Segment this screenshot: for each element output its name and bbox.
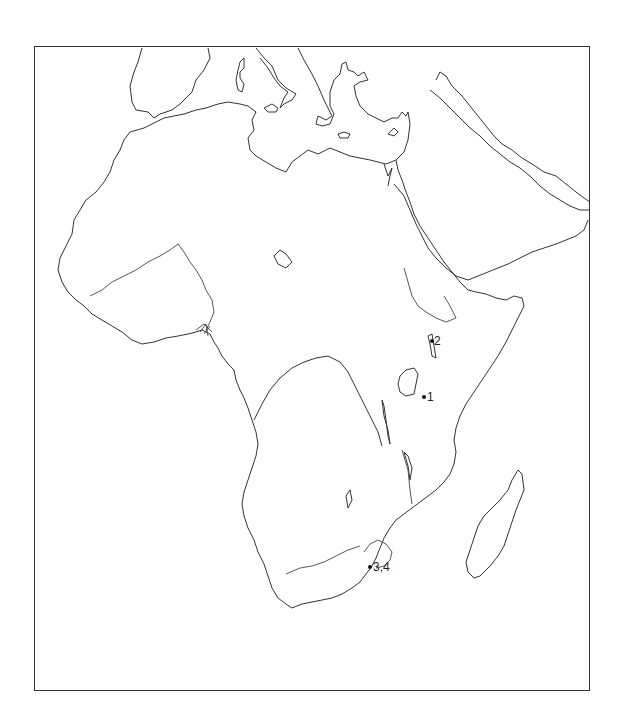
- site-label: 2: [434, 334, 441, 348]
- iberia-coastline: [130, 48, 210, 118]
- madagascar-island: [466, 470, 524, 578]
- italy-coastline: [256, 48, 296, 108]
- zagros-coastline: [430, 90, 590, 210]
- lake-malawi: [404, 452, 412, 480]
- sardinia-island: [236, 58, 244, 92]
- site-2: 2: [430, 334, 441, 348]
- persian-gulf-coastline: [436, 72, 590, 202]
- lake-tanganyika: [382, 400, 390, 444]
- rift-valley-line: [404, 268, 456, 322]
- site-3-4: 3,4: [368, 560, 390, 574]
- crete-island: [338, 132, 350, 138]
- arabia-coastline: [394, 184, 588, 280]
- africa-coastline-west: [58, 102, 524, 608]
- okavango-delta: [346, 490, 352, 508]
- orange-river: [286, 546, 360, 574]
- lake-chad: [274, 250, 292, 268]
- site-marker: [368, 565, 372, 569]
- sicily-island: [264, 104, 278, 112]
- congo-basin-edge: [254, 356, 382, 446]
- cyprus-island: [388, 128, 398, 136]
- site-label: 1: [427, 390, 434, 404]
- sinai-peninsula: [384, 164, 392, 186]
- site-label: 3,4: [373, 560, 390, 574]
- lake-victoria: [398, 368, 418, 396]
- africa-map: 1 2 3,4: [0, 0, 626, 726]
- balkans-coastline: [298, 48, 408, 126]
- site-1: 1: [422, 390, 434, 404]
- niger-river: [90, 244, 214, 330]
- site-marker: [422, 395, 426, 399]
